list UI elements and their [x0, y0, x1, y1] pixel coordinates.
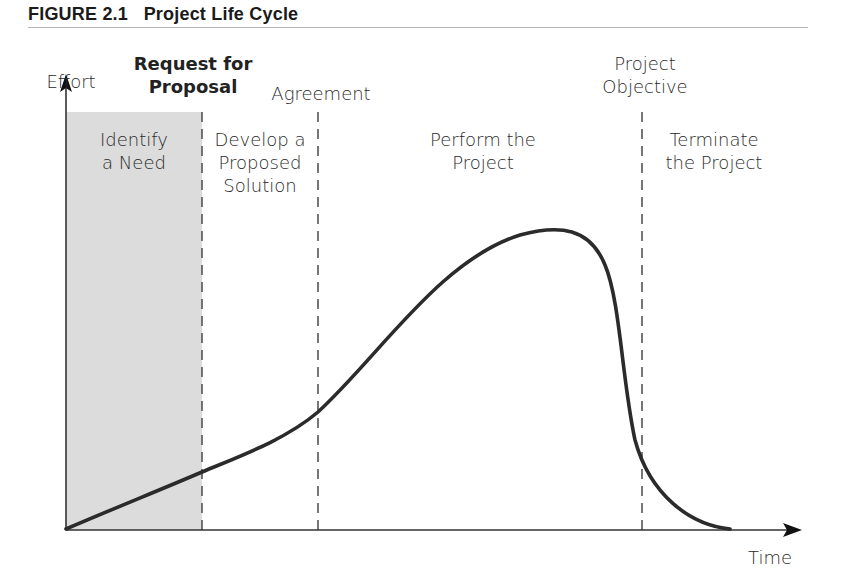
phase-identify-need: Identify a Need — [80, 128, 188, 174]
phase-terminate-project: Terminate the Project — [644, 128, 784, 174]
milestone-agreement: Agreement — [256, 82, 386, 105]
milestone-request-for-proposal: Request for Proposal — [118, 52, 268, 98]
phase-develop-solution: Develop a Proposed Solution — [204, 128, 316, 197]
milestone-project-objective: Project Objective — [580, 52, 710, 98]
x-axis-label: Time — [730, 546, 810, 569]
identify-need-shaded-region — [66, 112, 202, 530]
phase-perform-project: Perform the Project — [408, 128, 558, 174]
y-axis-label: Effort — [36, 70, 106, 93]
